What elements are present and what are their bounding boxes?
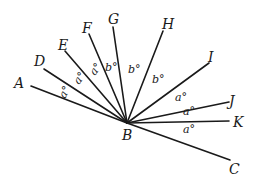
ray-bk: [127, 121, 229, 123]
point-label-k: K: [232, 114, 245, 130]
angle-label-h-i: b°: [152, 73, 165, 86]
point-label-e: E: [57, 37, 68, 53]
angle-label-j-k: a°: [183, 105, 195, 118]
point-label-i: I: [207, 49, 214, 65]
point-label-j: J: [226, 93, 236, 109]
point-label-f: F: [81, 20, 93, 36]
point-label-d: D: [33, 53, 45, 69]
angle-label-i-j: a°: [175, 91, 187, 104]
point-label-c: C: [229, 161, 240, 177]
point-label-h: H: [161, 16, 175, 32]
angle-labels-group: a°a°a°b°b°b°a°a°a°: [56, 60, 195, 136]
angle-label-g-h: b°: [128, 63, 141, 76]
vertex-label-b: B: [121, 127, 132, 143]
angle-label-f-g: b°: [105, 61, 118, 74]
ray-bc: [127, 123, 230, 160]
point-label-g: G: [108, 11, 119, 27]
angle-diagram: ADEFGHIJKC a°a°a°b°b°b°a°a°a° B: [0, 0, 257, 186]
angle-label-k-c: a°: [183, 123, 195, 136]
point-label-a: A: [12, 75, 24, 91]
angle-label-d-e: a°: [71, 69, 89, 86]
